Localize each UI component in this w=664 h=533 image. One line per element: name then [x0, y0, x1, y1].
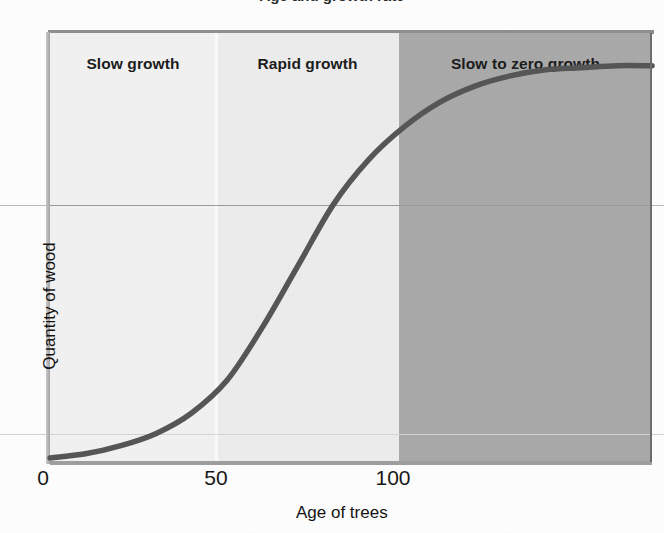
cut-off-title: Age and growth rate	[0, 0, 664, 14]
growth-curve	[50, 33, 652, 462]
cut-off-title-text: Age and growth rate	[0, 0, 664, 4]
plot-right-edge	[650, 33, 652, 462]
x-axis-title: Age of trees	[296, 503, 496, 523]
plot-area: Slow growth Rapid growth Slow to zero gr…	[50, 33, 652, 462]
growth-curve-path	[50, 66, 652, 458]
x-tick-label-0: 0	[31, 466, 55, 490]
y-axis-title: Quantity of wood	[40, 206, 60, 406]
x-axis-line	[50, 461, 652, 465]
x-tick-label-100: 100	[360, 466, 426, 490]
figure-container: Age and growth rate Slow growth Rapid gr…	[0, 0, 664, 533]
x-tick-label-50: 50	[193, 466, 239, 490]
